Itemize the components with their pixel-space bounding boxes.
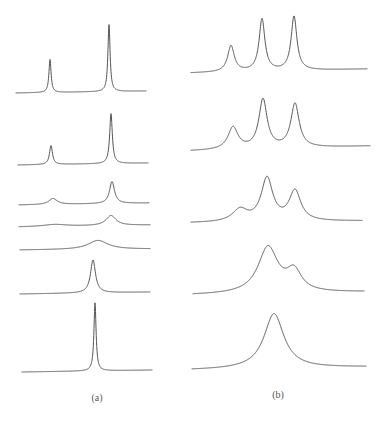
spectrum-trace-1 (16, 25, 146, 93)
spectrum-trace-2 (18, 114, 148, 165)
panel-a-label: (a) (91, 392, 102, 403)
spectrum-trace-7 (22, 303, 152, 372)
spectrum-trace-4 (19, 215, 150, 226)
spectrum-trace-6 (20, 260, 150, 294)
spectrum-trace-5 (192, 314, 366, 369)
spectra-figure (0, 0, 381, 423)
spectrum-trace-5 (20, 240, 150, 249)
spectrum-trace-2 (191, 98, 370, 150)
panel-a-traces (16, 25, 152, 372)
spectrum-trace-3 (19, 182, 149, 205)
spectrum-trace-4 (193, 246, 364, 294)
spectrum-trace-3 (191, 176, 362, 222)
panel-b-traces (191, 16, 370, 369)
panel-b-label: (b) (272, 389, 284, 400)
spectrum-trace-1 (191, 16, 367, 73)
